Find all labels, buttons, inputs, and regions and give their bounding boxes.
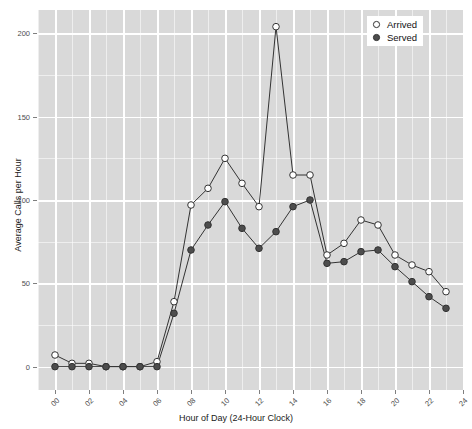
data-point-served [273,228,280,235]
data-point-served [392,263,399,270]
data-point-served [205,222,212,229]
series-layer [38,10,463,390]
data-point-arrived [392,252,399,259]
data-point-arrived [256,203,263,210]
data-point-served [290,203,297,210]
data-point-served [239,225,246,232]
legend-item-arrived: Arrived [371,19,417,30]
chart-container: 050100150200 00020406081012141618202224 … [0,0,472,429]
data-point-served [120,363,127,370]
legend-label-arrived: Arrived [387,19,417,30]
data-point-arrived [375,222,382,229]
x-tick-mark [55,390,56,394]
data-point-served [103,363,110,370]
series-line-arrived [55,27,446,367]
data-point-arrived [341,240,348,247]
plot-panel [38,10,463,390]
data-point-served [307,197,314,204]
y-tick-mark [33,367,37,368]
legend-label-served: Served [387,32,417,43]
x-tick-mark [429,390,430,394]
data-point-served [171,310,178,317]
data-point-served [154,363,161,370]
y-tick-label: 200 [17,29,30,38]
data-point-arrived [443,288,450,295]
data-point-arrived [307,172,314,179]
x-tick-mark [89,390,90,394]
legend-item-served: Served [371,32,417,43]
y-tick-mark [33,33,37,34]
data-point-served [409,278,416,285]
data-point-served [222,198,229,205]
x-tick-mark [361,390,362,394]
data-point-served [358,248,365,255]
data-point-arrived [171,298,178,305]
y-tick-mark [33,200,37,201]
x-tick-mark [463,390,464,394]
data-point-served [52,363,59,370]
data-point-served [69,363,76,370]
data-point-arrived [205,185,212,192]
x-axis-title: Hour of Day (24-Hour Clock) [0,413,472,423]
x-tick-mark [395,390,396,394]
data-point-served [137,363,144,370]
y-tick-mark [33,283,37,284]
chart-legend: Arrived Served [367,16,423,46]
y-tick-mark [33,117,37,118]
data-point-arrived [188,202,195,209]
data-point-arrived [52,352,59,359]
x-tick-mark [191,390,192,394]
y-tick-label: 0 [26,362,30,371]
x-tick-mark [293,390,294,394]
data-point-arrived [426,268,433,275]
x-tick-mark [259,390,260,394]
x-tick-mark [327,390,328,394]
data-point-served [86,363,93,370]
data-point-served [375,247,382,254]
y-axis-title: Average Calls per Hour [13,115,23,295]
data-point-arrived [222,155,229,162]
filled-circle-icon [371,32,382,43]
data-point-served [426,293,433,300]
data-point-arrived [358,217,365,224]
data-point-served [324,260,331,267]
data-point-arrived [324,252,331,259]
data-point-arrived [409,262,416,269]
data-point-served [256,245,263,252]
data-point-arrived [273,23,280,30]
x-tick-mark [157,390,158,394]
open-circle-icon [371,19,382,30]
data-point-served [188,247,195,254]
data-point-arrived [290,172,297,179]
x-tick-mark [123,390,124,394]
data-point-arrived [239,180,246,187]
series-line-served [55,200,446,367]
data-point-served [443,305,450,312]
data-point-served [341,258,348,265]
x-tick-mark [225,390,226,394]
